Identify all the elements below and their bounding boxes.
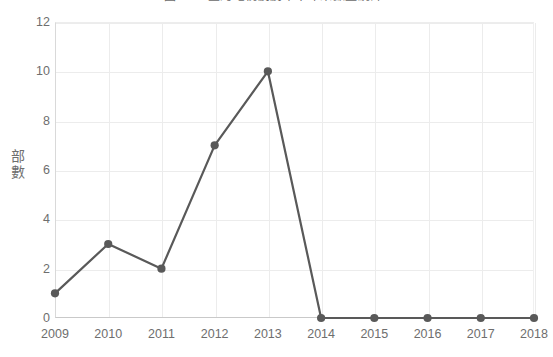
x-axis-tick-label: 2011: [131, 327, 191, 341]
data-point: [104, 240, 112, 248]
x-axis-tick-label: 2009: [25, 327, 85, 341]
data-point: [51, 289, 59, 297]
data-point: [370, 314, 378, 322]
x-axis-tick-label: 2013: [238, 327, 298, 341]
x-axis-tick-labels: 2009201020112012201320142015201620172018: [55, 327, 534, 347]
x-axis-tick-label: 2017: [451, 327, 511, 341]
x-axis-tick-label: 2014: [291, 327, 351, 341]
series-line: [55, 71, 534, 318]
data-point: [264, 67, 272, 75]
x-axis-tick-label: 2015: [344, 327, 404, 341]
data-point: [477, 314, 485, 322]
data-point: [530, 314, 538, 322]
data-point: [157, 265, 165, 273]
data-point: [317, 314, 325, 322]
data-point: [423, 314, 431, 322]
x-axis-tick-label: 2018: [504, 327, 553, 341]
x-axis-tick-label: 2012: [185, 327, 245, 341]
x-axis-tick-label: 2010: [78, 327, 138, 341]
x-axis-tick-label: 2016: [398, 327, 458, 341]
data-point: [211, 141, 219, 149]
